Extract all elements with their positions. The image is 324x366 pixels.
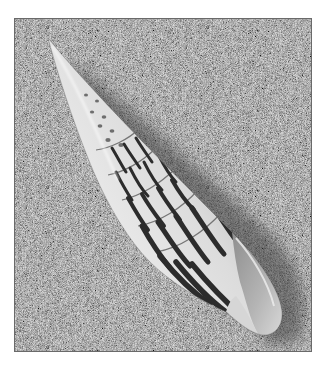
shell-photo [15, 19, 311, 351]
photo-frame [15, 19, 311, 351]
